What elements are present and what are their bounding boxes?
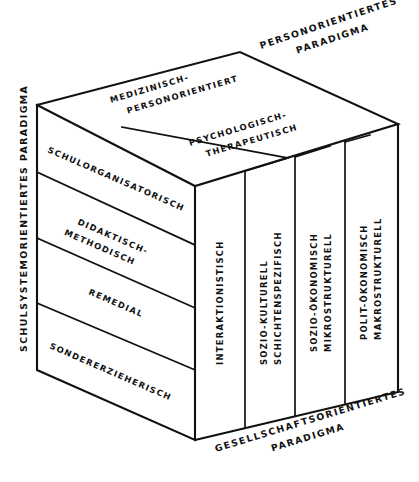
front-column-label-1: INTERAKTIONISTISCH xyxy=(215,240,225,365)
left-paradigm-label: SCHULSYSTEMORIENTIERTES PARADIGMA xyxy=(18,85,29,352)
diagram-canvas: SCHULORGANISATORISCH DIDAKTISCH- METHODI… xyxy=(0,0,419,482)
top-paradigm-label: PERSONORIENTIERTES PARADIGMA xyxy=(258,0,408,66)
three-paradigm-cube-diagram: SCHULORGANISATORISCH DIDAKTISCH- METHODI… xyxy=(0,0,419,482)
